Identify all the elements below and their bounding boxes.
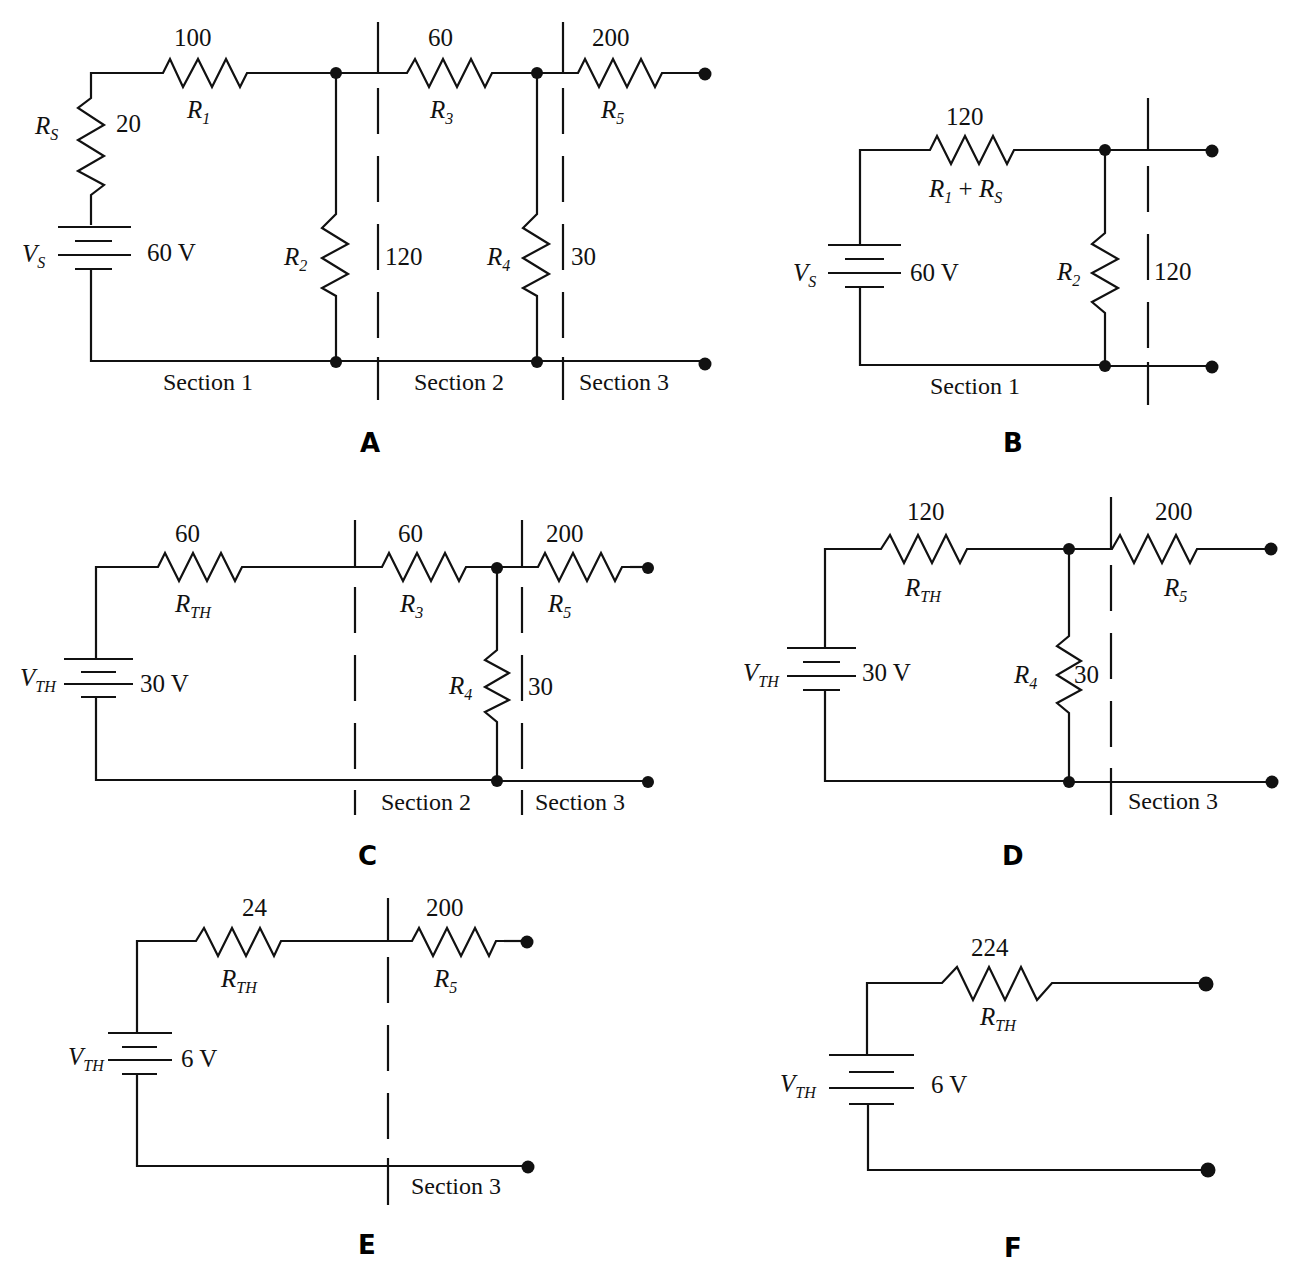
resistor-r4 [523, 73, 549, 361]
rth-value: 224 [971, 934, 1009, 961]
panel-b: 120 R1 + RS VS 60 V R2 120 Section 1 B [793, 98, 1219, 458]
panel-a: 100 R1 RS 20 VS 60 V R2 120 60 R3 R4 30 … [22, 22, 712, 458]
rth-label: RTH [220, 965, 258, 996]
r2-label: R2 [1056, 258, 1080, 289]
r4-label: R4 [1013, 661, 1037, 692]
vs-label: VS [22, 240, 45, 271]
vth-label: VTH [20, 664, 57, 695]
r3-value: 60 [428, 24, 453, 51]
resistor-rth [153, 553, 250, 581]
panel-label-c: C [358, 841, 377, 871]
node-dot [1063, 543, 1075, 555]
r4-value: 30 [528, 673, 553, 700]
panel-e: 24 RTH VTH 6 V 200 R5 Section 3 E [68, 894, 535, 1260]
wire [96, 697, 497, 780]
wire [96, 567, 153, 660]
section-1-label: Section 1 [930, 373, 1020, 399]
vs-value: 60 V [147, 239, 196, 266]
node-dot [491, 562, 503, 574]
rs-label: RS [34, 112, 58, 143]
vth-value: 30 V [140, 670, 189, 697]
node-dot [531, 356, 543, 368]
vth-value: 6 V [181, 1045, 217, 1072]
r5-value: 200 [1155, 498, 1193, 525]
panel-label-e: E [358, 1230, 376, 1260]
terminal-dot [1265, 543, 1278, 556]
r1-rs-value: 120 [946, 103, 984, 130]
resistor-r4 [485, 567, 509, 780]
wire [825, 690, 1069, 781]
r2-value: 120 [385, 243, 423, 270]
wire [860, 150, 924, 246]
node-dot [330, 67, 342, 79]
vth-value: 6 V [931, 1071, 967, 1098]
node-dot [531, 67, 543, 79]
rth-label: RTH [174, 590, 212, 621]
terminal-dot [642, 562, 654, 574]
wire [137, 941, 192, 1033]
node-dot [1063, 776, 1075, 788]
resistor-r5 [1108, 535, 1270, 563]
panel-label-d: D [1002, 841, 1024, 871]
resistor-r5 [534, 553, 630, 581]
vth-label: VTH [780, 1070, 817, 1101]
section-3-label: Section 3 [535, 789, 625, 815]
terminal-dot [642, 776, 654, 788]
panel-f: 224 RTH VTH 6 V F [780, 934, 1216, 1263]
section-3-label: Section 3 [579, 369, 669, 395]
rth-label: RTH [904, 574, 942, 605]
rth-value: 24 [242, 894, 268, 921]
r3-label: R3 [429, 96, 453, 127]
r1-label: R1 [186, 96, 210, 127]
section-1-label: Section 1 [163, 369, 253, 395]
node-dot [330, 356, 342, 368]
terminal-dot [699, 358, 712, 371]
section-3-label: Section 3 [1128, 788, 1218, 814]
wire [137, 1074, 527, 1166]
panel-label-a: A [360, 428, 380, 458]
wire [867, 983, 940, 1055]
terminal-dot [1206, 145, 1219, 158]
panel-d: 120 RTH VTH 30 V R4 30 200 R5 Section 3 … [743, 497, 1279, 871]
terminal-dot [1206, 361, 1219, 374]
r1-rs-label: R1 + RS [928, 175, 1002, 206]
resistor-r3 [402, 59, 500, 87]
vth-label: VTH [743, 659, 780, 690]
r5-value: 200 [546, 520, 584, 547]
r3-label: R3 [399, 590, 423, 621]
node-dot [1099, 360, 1111, 372]
resistor-rth [940, 967, 1060, 1000]
section-3-label: Section 3 [411, 1173, 501, 1199]
r5-label: R5 [433, 965, 457, 996]
r4-value: 30 [571, 243, 596, 270]
r2-value: 120 [1154, 258, 1192, 285]
terminal-dot [1201, 1163, 1216, 1178]
r4-value: 30 [1074, 661, 1099, 688]
section-2-label: Section 2 [381, 789, 471, 815]
r4-label: R4 [448, 672, 472, 703]
r2-label: R2 [283, 243, 307, 274]
rth-value: 60 [175, 520, 200, 547]
r5-label: R5 [600, 96, 624, 127]
wire [868, 1104, 1208, 1170]
r5-value: 200 [592, 24, 630, 51]
r5-value: 200 [426, 894, 464, 921]
wire [91, 73, 153, 89]
node-dot [491, 775, 503, 787]
terminal-dot [522, 1161, 535, 1174]
vs-value: 60 V [910, 259, 959, 286]
r5-label: R5 [547, 590, 571, 621]
vth-label: VTH [68, 1043, 105, 1074]
circuit-figure: 100 R1 RS 20 VS 60 V R2 120 60 R3 R4 30 … [0, 0, 1293, 1276]
terminal-dot [1199, 977, 1214, 992]
section-2-label: Section 2 [414, 369, 504, 395]
resistor-r2 [322, 73, 348, 361]
resistor-r1 [153, 59, 255, 87]
terminal-dot [521, 936, 534, 949]
vs-label: VS [793, 259, 816, 290]
resistor-rs [78, 89, 104, 225]
resistor-rth [192, 928, 289, 956]
resistor-r5 [409, 928, 504, 956]
wire [91, 269, 336, 361]
terminal-dot [699, 68, 712, 81]
